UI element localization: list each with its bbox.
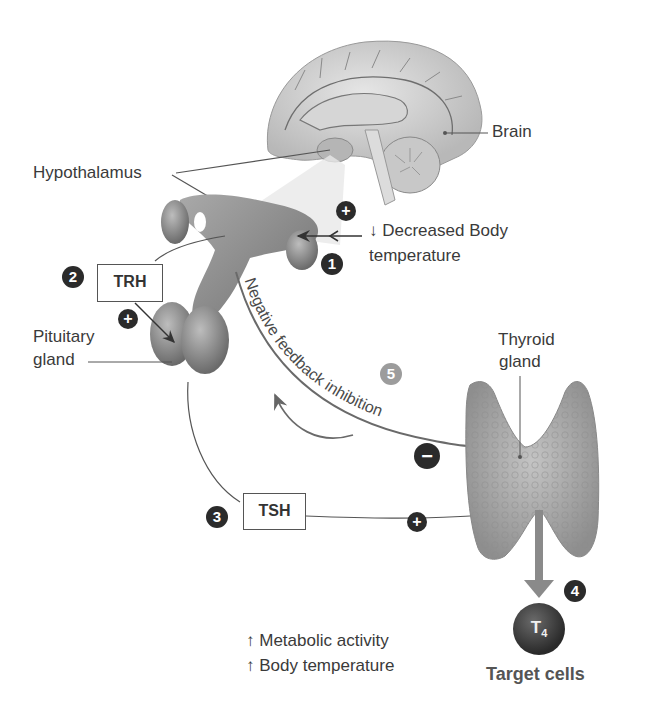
thyroid-illustration xyxy=(466,382,599,560)
hypothalamus-leader-brain xyxy=(176,150,330,173)
pituitary-label-line2: gland xyxy=(33,350,75,370)
stimulus-label-line2: temperature xyxy=(369,246,461,266)
hpt-axis-diagram: Negative feedback inhibition Brain Hypot… xyxy=(0,0,657,725)
stimulus-plus-icon: + xyxy=(336,201,356,221)
stimulus-label-line1: ↓ Decreased Body xyxy=(369,221,508,241)
step-1-badge: 1 xyxy=(321,253,343,275)
thyroid-label-line2: gland xyxy=(499,352,541,372)
effect-label-line1: ↑ Metabolic activity xyxy=(246,631,389,651)
trh-plus-icon: + xyxy=(118,309,138,329)
tsh-origin-line xyxy=(188,382,240,502)
t4-output-shaft xyxy=(535,510,543,582)
tsh-hormone-box: TSH xyxy=(243,493,306,530)
target-cells-label: Target cells xyxy=(486,664,585,685)
tsh-plus-icon: + xyxy=(407,512,427,532)
t4-output-arrowhead xyxy=(524,580,554,598)
trh-hormone-box: TRH xyxy=(97,264,163,302)
thyroid-label-line1: Thyroid xyxy=(498,330,555,350)
tsh-to-thyroid-arrow xyxy=(306,515,487,518)
negative-feedback-arc xyxy=(236,272,470,446)
effect-label-line2: ↑ Body temperature xyxy=(246,656,394,676)
t4-hormone-circle: T4 xyxy=(513,603,565,655)
step-2-badge: 2 xyxy=(62,266,84,288)
step-3-badge: 3 xyxy=(206,506,228,528)
feedback-minus-icon: − xyxy=(414,443,440,469)
brain-label: Brain xyxy=(492,122,532,142)
hypothalamus-label: Hypothalamus xyxy=(33,163,142,183)
step-4-badge: 4 xyxy=(564,580,586,602)
step-5-badge: 5 xyxy=(380,363,402,385)
negative-feedback-label: Negative feedback inhibition xyxy=(242,275,385,419)
pituitary-label-line1: Pituitary xyxy=(33,327,94,347)
